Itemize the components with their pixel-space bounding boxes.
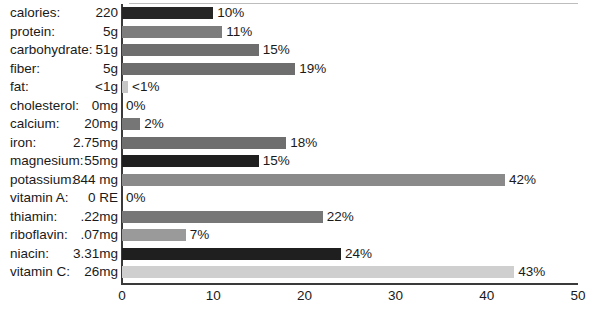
chart-row: fiber:5g19%	[0, 60, 595, 79]
chart-row: riboflavin:.07mg7%	[0, 226, 595, 245]
data-bar	[122, 174, 505, 186]
chart-row: fat:<1g<1%	[0, 78, 595, 97]
nutrient-amount: 51g	[0, 41, 118, 60]
chart-row: magnesium:55mg15%	[0, 152, 595, 171]
bar-value-label: 10%	[217, 4, 244, 23]
chart-row: niacin:3.31mg24%	[0, 245, 595, 264]
nutrient-amount: 55mg	[0, 152, 118, 171]
x-axis-tick-0: 0	[102, 288, 142, 303]
data-bar	[122, 81, 128, 93]
chart-row: calcium:20mg2%	[0, 115, 595, 134]
nutrient-amount: 26mg	[0, 263, 118, 282]
bar-value-label: 7%	[190, 226, 210, 245]
x-axis-tick-30: 30	[376, 288, 416, 303]
bar-value-label: 22%	[327, 208, 354, 227]
bar-value-label: 0%	[126, 189, 146, 208]
bar-value-label: <1%	[132, 78, 159, 97]
data-bar	[122, 155, 259, 167]
data-bar	[122, 248, 341, 260]
nutrient-amount: <1g	[0, 78, 118, 97]
data-bar	[122, 266, 514, 278]
bar-value-label: 19%	[299, 60, 326, 79]
bar-value-label: 11%	[226, 23, 252, 42]
bar-value-label: 24%	[345, 245, 372, 264]
chart-row: potassium:844 mg42%	[0, 171, 595, 190]
nutrient-amount: 5g	[0, 60, 118, 79]
data-bar	[122, 118, 140, 130]
data-bar	[122, 63, 295, 75]
x-axis-line	[121, 283, 578, 285]
x-axis-tick-10: 10	[193, 288, 233, 303]
chart-row: cholesterol:0mg0%	[0, 97, 595, 116]
chart-row: carbohydrate:51g15%	[0, 41, 595, 60]
nutrient-amount: .22mg	[0, 208, 118, 227]
x-axis-tick-40: 40	[467, 288, 507, 303]
chart-row: protein:5g11%	[0, 23, 595, 42]
data-bar	[122, 229, 186, 241]
nutrient-amount: 844 mg	[0, 171, 118, 190]
bar-value-label: 43%	[518, 263, 545, 282]
x-axis-tick-50: 50	[558, 288, 595, 303]
nutrient-amount: .07mg	[0, 226, 118, 245]
chart-row: calories:22010%	[0, 4, 595, 23]
bar-value-label: 0%	[126, 97, 146, 116]
nutrient-amount: 5g	[0, 23, 118, 42]
chart-row: thiamin:.22mg22%	[0, 208, 595, 227]
chart-row: iron:2.75mg18%	[0, 134, 595, 153]
x-axis-tick-20: 20	[284, 288, 324, 303]
bar-value-label: 18%	[290, 134, 317, 153]
nutrient-amount: 0mg	[0, 97, 118, 116]
data-bar	[122, 211, 323, 223]
nutrient-amount: 20mg	[0, 115, 118, 134]
bar-value-label: 2%	[144, 115, 164, 134]
data-bar	[122, 7, 213, 19]
data-bar	[122, 137, 286, 149]
data-bar	[122, 44, 259, 56]
nutrient-amount: 0 RE	[0, 189, 118, 208]
bar-value-label: 15%	[263, 152, 290, 171]
nutrient-amount: 220	[0, 4, 118, 23]
nutrient-amount: 3.31mg	[0, 245, 118, 264]
nutrient-amount: 2.75mg	[0, 134, 118, 153]
chart-row: vitamin C:26mg43%	[0, 263, 595, 282]
bar-value-label: 15%	[263, 41, 290, 60]
data-bar	[122, 26, 222, 38]
chart-row: vitamin A:0 RE0%	[0, 189, 595, 208]
bar-value-label: 42%	[509, 171, 536, 190]
nutrition-bar-chart: calories:22010%protein:5g11%carbohydrate…	[0, 0, 595, 312]
